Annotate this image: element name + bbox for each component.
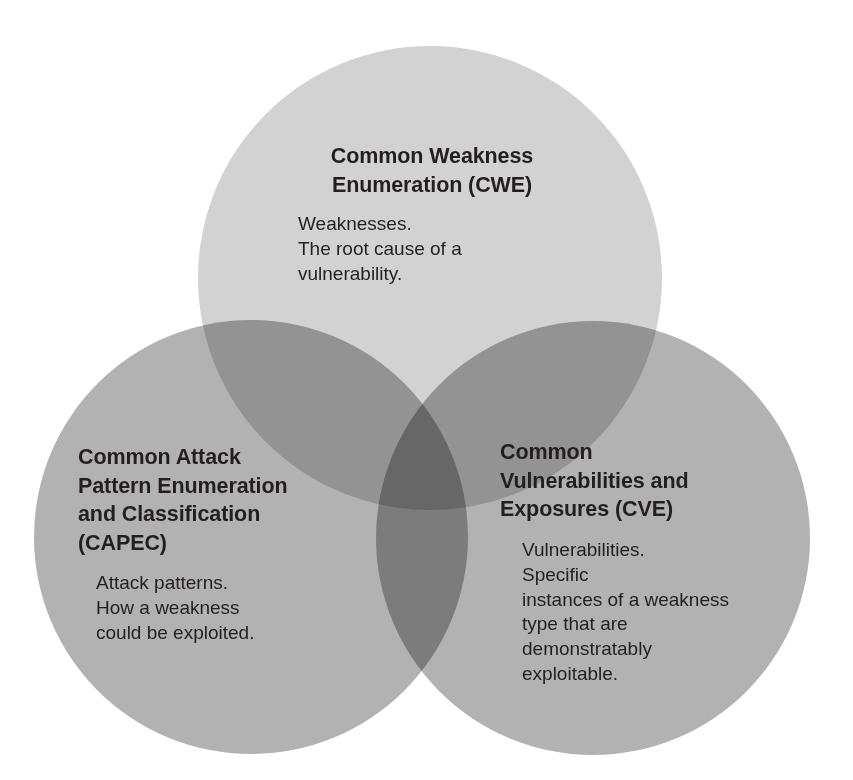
venn-diagram: Common Weakness Enumeration (CWE) Weakne…: [0, 0, 853, 780]
venn-label-cve-body: Vulnerabilities. Specific instances of a…: [500, 538, 800, 687]
venn-label-cwe-body: Weaknesses. The root cause of a vulnerab…: [222, 212, 642, 287]
venn-label-cwe: Common Weakness Enumeration (CWE) Weakne…: [222, 142, 642, 287]
venn-label-capec-body: Attack patterns. How a weakness could be…: [78, 571, 378, 646]
venn-label-capec: Common Attack Pattern Enumeration and Cl…: [78, 443, 378, 646]
venn-label-cve: Common Vulnerabilities and Exposures (CV…: [500, 438, 800, 687]
venn-label-cve-title: Common Vulnerabilities and Exposures (CV…: [500, 438, 800, 524]
venn-label-cwe-title: Common Weakness Enumeration (CWE): [222, 142, 642, 199]
venn-label-capec-title: Common Attack Pattern Enumeration and Cl…: [78, 443, 378, 557]
